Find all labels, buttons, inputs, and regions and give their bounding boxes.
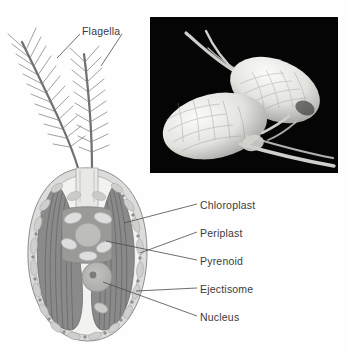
cell-body xyxy=(28,168,147,341)
label-chloroplast: Chloroplast xyxy=(200,199,255,211)
sem-micrograph xyxy=(150,17,338,173)
nucleolus xyxy=(90,272,97,279)
gullet xyxy=(76,168,98,211)
label-periplast: Periplast xyxy=(200,227,243,239)
label-ejectisome: Ejectisome xyxy=(200,283,253,295)
nucleus xyxy=(82,262,112,292)
label-nucleus: Nucleus xyxy=(200,311,239,323)
label-pyrenoid: Pyrenoid xyxy=(200,255,243,267)
cryptomonad-figure xyxy=(0,0,348,357)
pyrenoid xyxy=(60,207,114,264)
label-flagella: Flagella xyxy=(82,25,120,37)
